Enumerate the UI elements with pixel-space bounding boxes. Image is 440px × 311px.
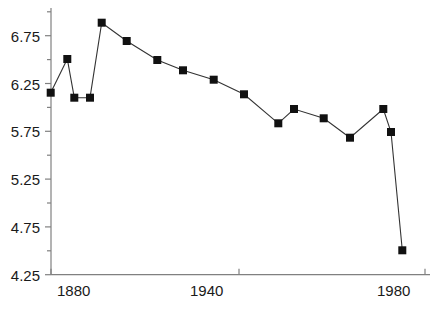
data-point-marker: 1973: 5.98	[379, 105, 387, 113]
data-point-marker: 1885: 6.1	[86, 94, 94, 102]
x-tick-label: 1940	[190, 283, 223, 298]
data-point-marker: 1980: 4.5	[398, 246, 406, 254]
y-tick-label: 4.75	[0, 220, 40, 235]
y-tick-label: 6.25	[0, 77, 40, 92]
data-point-marker: 1976: 5.74	[387, 128, 395, 136]
data-point-marker: 1895: 6.69	[123, 37, 131, 45]
data-point-marker: 1930: 6.14	[240, 90, 248, 98]
data-point-marker: 1921: 6.29	[210, 76, 218, 84]
data-point-marker: 1946: 5.98	[290, 105, 298, 113]
x-tick-label: 1980	[377, 283, 410, 298]
data-point-marker: 1912: 6.39	[179, 66, 187, 74]
x-tick-label: 1880	[57, 283, 90, 298]
y-tick-label: 4.25	[0, 268, 40, 283]
plot-area: 1876: 6.151879: 6.511882: 6.11885: 6.118…	[0, 0, 440, 311]
y-tick-label: 5.75	[0, 124, 40, 139]
data-point-marker: 1955: 5.88	[320, 114, 328, 122]
data-markers: 1876: 6.151879: 6.511882: 6.11885: 6.118…	[47, 19, 407, 255]
x-axis-ticks	[51, 269, 425, 275]
y-axis-ticks	[45, 12, 51, 275]
line-chart: 1876: 6.151879: 6.511882: 6.11885: 6.118…	[0, 0, 440, 311]
y-tick-label: 6.75	[0, 29, 40, 44]
data-point-marker: 1888: 6.89	[98, 19, 106, 27]
data-point-marker: 1904: 6.5	[153, 56, 161, 64]
data-point-marker: 1882: 6.1	[70, 94, 78, 102]
y-tick-label: 5.25	[0, 172, 40, 187]
data-point-marker: 1876: 6.15	[47, 89, 55, 97]
data-point-marker: 1879: 6.51	[63, 55, 71, 63]
data-point-marker: 1963: 5.68	[346, 134, 354, 142]
data-point-marker: 1940: 5.83	[274, 119, 282, 127]
